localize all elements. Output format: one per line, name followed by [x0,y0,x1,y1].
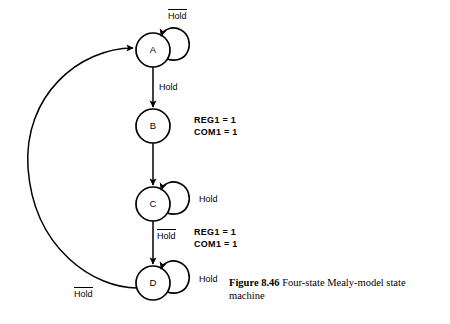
state-label-c: C [150,198,157,209]
output-line-com1-d: COM1 = 1 [194,239,238,251]
output-line-reg1-b: REG1 = 1 [194,115,238,127]
state-label-b: B [150,120,156,131]
edge-label-c-to-d: Hold [157,229,176,242]
state-machine-diagram: A B C D [0,0,450,324]
edge-label-d-to-a: Hold [74,287,93,300]
output-line-reg1-d: REG1 = 1 [194,227,238,239]
figure-caption-number: Figure 8.46 [229,277,280,288]
state-label-d: D [150,277,157,288]
output-block-state-b: REG1 = 1 COM1 = 1 [194,115,238,138]
output-block-state-d: REG1 = 1 COM1 = 1 [194,227,238,250]
state-label-a: A [150,44,157,55]
output-line-com1-b: COM1 = 1 [194,127,238,139]
figure-container: A B C D Hold Hold Hold Hold Hold [0,0,450,324]
edge-label-self-loop-c: Hold [199,194,218,205]
edge-label-a-to-b: Hold [159,82,178,93]
transition-d-to-a [28,48,137,288]
edge-label-self-loop-a: Hold [168,9,187,22]
edge-label-self-loop-d: Hold [199,274,218,285]
figure-caption: Figure 8.46 Four-state Mealy-model state… [229,277,441,302]
